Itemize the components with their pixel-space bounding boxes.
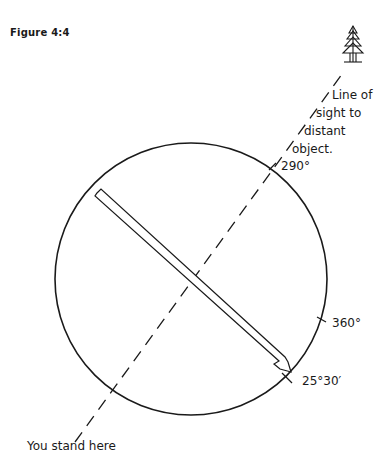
- direction-arrow: [95, 189, 291, 372]
- line-of-sight-label-1: Line of: [332, 86, 372, 104]
- observer-label: You stand here: [27, 437, 116, 455]
- bearing-25-30-label: 25°30′: [302, 372, 341, 390]
- line-of-sight-label-2: sight to: [316, 104, 361, 122]
- tree-icon: [343, 26, 363, 62]
- bearing-360-label: 360°: [332, 314, 361, 332]
- line-of-sight-label-4: object.: [292, 140, 333, 158]
- compass-diagram: [0, 0, 386, 470]
- line-of-sight-label-3: distant: [304, 122, 346, 140]
- bearing-290-label: 290°: [281, 157, 310, 175]
